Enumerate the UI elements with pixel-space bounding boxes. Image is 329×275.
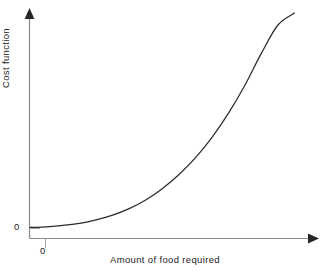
x-axis-label: Amount of food required (110, 254, 220, 265)
chart-plot-area (0, 0, 329, 275)
y-axis-label: Cost function (0, 14, 11, 88)
y-axis-arrowhead-icon (25, 8, 35, 19)
x-axis-arrowhead-icon (308, 234, 319, 244)
x-axis-origin-tick-label: 0 (40, 245, 45, 256)
y-axis-origin-tick-label: 0 (14, 221, 19, 232)
cost-function-curve (30, 13, 294, 227)
chart-figure: Cost function Amount of food required 0 … (0, 0, 329, 275)
